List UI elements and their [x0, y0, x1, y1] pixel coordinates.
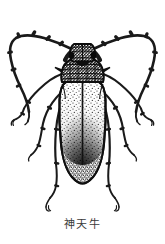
head	[69, 44, 97, 66]
illustration-page: 神天牛	[0, 0, 165, 244]
beetle-illustration	[0, 0, 165, 215]
elytra	[59, 82, 105, 184]
figure-caption: 神天牛	[0, 218, 165, 232]
beetle-drawing-svg	[0, 0, 165, 215]
